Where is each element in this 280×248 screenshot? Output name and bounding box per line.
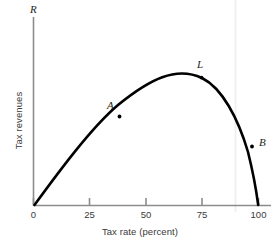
x-tick-label-100: 100 <box>244 209 274 220</box>
x-tick-label-50: 50 <box>131 209 161 220</box>
x-tick-label-25: 25 <box>75 209 105 220</box>
point-label-b: B <box>259 136 266 148</box>
x-tick-label-75: 75 <box>187 209 217 220</box>
y-axis-title: Tax revenues <box>13 61 24 181</box>
point-label-l: L <box>197 58 203 70</box>
laffer-curve-path <box>35 73 259 205</box>
point-marker-a <box>118 115 122 119</box>
y-axis-symbol: R <box>30 3 37 15</box>
x-axis-title: Tax rate (percent) <box>0 226 280 237</box>
x-tick-label-0: 0 <box>19 209 49 220</box>
x-axis-ticks <box>34 198 259 206</box>
point-label-a: A <box>107 99 114 111</box>
laffer-curve-figure: R A L B 0 25 50 75 100 Tax rate (percent… <box>0 0 280 248</box>
point-marker-b <box>250 145 254 149</box>
point-marker-l <box>200 76 204 80</box>
